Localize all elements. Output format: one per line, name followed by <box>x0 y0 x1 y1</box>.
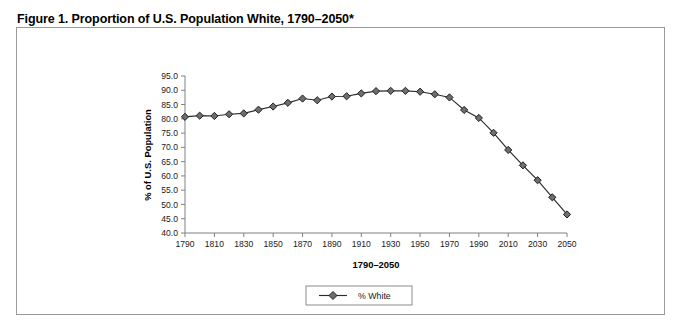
x-axis-tick-group: 1790181018301850187018901910193019501970… <box>175 233 576 249</box>
data-point-marker <box>314 97 321 104</box>
x-tick-label: 1950 <box>411 239 430 249</box>
y-axis-tick-group: 40.045.050.055.060.065.070.075.080.085.0… <box>161 71 185 238</box>
x-tick-label: 1930 <box>381 239 400 249</box>
data-point-marker <box>358 90 365 97</box>
x-tick-label: 1910 <box>352 239 371 249</box>
data-point-marker <box>299 95 306 102</box>
y-tick-label: 95.0 <box>161 71 178 81</box>
y-tick-label: 90.0 <box>161 85 178 95</box>
y-tick-label: 75.0 <box>161 128 178 138</box>
y-tick-label: 45.0 <box>161 214 178 224</box>
x-tick-label: 1810 <box>205 239 224 249</box>
x-tick-label: 1990 <box>469 239 488 249</box>
y-tick-label: 55.0 <box>161 185 178 195</box>
series-marker-group <box>181 87 570 218</box>
x-tick-label: 1870 <box>293 239 312 249</box>
data-point-marker <box>372 88 379 95</box>
data-point-marker <box>211 112 218 119</box>
data-point-marker <box>343 93 350 100</box>
y-tick-label: 70.0 <box>161 142 178 152</box>
legend: % White <box>306 286 412 305</box>
data-point-marker <box>387 87 394 94</box>
data-point-marker <box>225 111 232 118</box>
data-point-marker <box>416 88 423 95</box>
x-axis-title: 1790–2050 <box>353 259 400 270</box>
line-chart-svg: 40.045.050.055.060.065.070.075.080.085.0… <box>17 28 666 316</box>
data-point-marker <box>270 103 277 110</box>
data-point-marker <box>431 91 438 98</box>
legend-label-white: % White <box>358 291 391 301</box>
data-point-marker <box>328 93 335 100</box>
x-tick-label: 2010 <box>499 239 518 249</box>
figure-title: Figure 1. Proportion of U.S. Population … <box>17 12 354 26</box>
x-tick-label: 2030 <box>528 239 547 249</box>
x-tick-label: 1790 <box>175 239 194 249</box>
x-tick-label: 1970 <box>440 239 459 249</box>
y-tick-label: 65.0 <box>161 157 178 167</box>
y-tick-label: 40.0 <box>161 228 178 238</box>
chart-plot-area: 40.045.050.055.060.065.070.075.080.085.0… <box>17 28 666 316</box>
x-tick-label: 1890 <box>322 239 341 249</box>
data-point-marker <box>255 106 262 113</box>
x-tick-label: 1830 <box>234 239 253 249</box>
data-point-marker <box>181 113 188 120</box>
y-tick-label: 80.0 <box>161 114 178 124</box>
y-tick-label: 85.0 <box>161 100 178 110</box>
figure-box: 40.045.050.055.060.065.070.075.080.085.0… <box>16 27 665 315</box>
x-tick-label: 2050 <box>557 239 576 249</box>
data-point-marker <box>240 110 247 117</box>
data-point-marker <box>284 99 291 106</box>
y-tick-label: 60.0 <box>161 171 178 181</box>
y-tick-label: 50.0 <box>161 200 178 210</box>
y-axis-title: % of U.S. Population <box>142 109 153 201</box>
data-point-marker <box>402 87 409 94</box>
x-tick-label: 1850 <box>264 239 283 249</box>
data-point-marker <box>196 112 203 119</box>
